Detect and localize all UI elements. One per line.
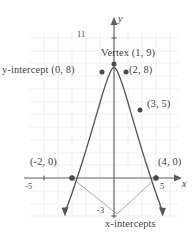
curve-right-arrowhead <box>159 207 166 216</box>
x-tick-label-neg5: -5 <box>25 182 32 191</box>
x-tick-label-5: 5 <box>160 182 164 191</box>
point-label-4-0: (4, 0) <box>158 157 181 168</box>
parabola-figure: 11 y x Vertex (1, 9) y-intercept (0, 8) … <box>0 0 196 244</box>
point-4-0 <box>153 175 159 181</box>
y-axis-label: y <box>118 14 123 24</box>
y-tick-label-neg3: -3 <box>97 206 104 215</box>
point-vertex <box>112 62 117 67</box>
y-tick-label-11: 11 <box>77 30 85 39</box>
point-label-2-8: (2, 8) <box>129 65 152 76</box>
point-neg2-0 <box>69 175 75 181</box>
y-intercept-label: y-intercept (0, 8) <box>2 65 75 76</box>
grid-lines <box>30 32 178 216</box>
curve-left-arrowhead <box>62 207 69 217</box>
vertex-label: Vertex (1, 9) <box>101 48 155 59</box>
x-axis-arrowhead <box>174 175 182 182</box>
point-label-neg2-0: (-2, 0) <box>30 157 57 168</box>
point-2-8 <box>124 70 129 75</box>
y-axis-arrowhead <box>111 17 118 25</box>
point-label-3-5: (3, 5) <box>147 99 170 110</box>
x-intercepts-annotation: x-intercepts <box>105 219 156 230</box>
x-axis-label: x <box>182 179 187 189</box>
point-3-5 <box>138 108 143 113</box>
point-y-intercept <box>100 70 105 75</box>
